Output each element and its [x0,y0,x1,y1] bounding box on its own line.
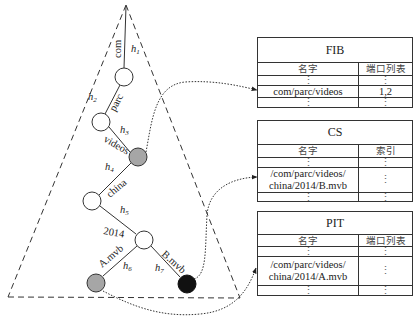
label-a-mvb: A.mvb [96,243,125,270]
pit-entry-ports: ⋮ [358,257,412,285]
node-china [83,192,101,210]
arrow-to-cs [194,177,257,279]
cs-row: ⋮ ⋮ [258,158,412,168]
node-b-mvb [178,275,196,293]
hash-h1: h1 [131,43,140,56]
cs-row: /com/parc/videos/ china/2014/B.mvb ⋮ [258,168,412,193]
pit-title: PIT [258,212,412,235]
hash-h2: h2 [88,91,97,104]
pit-row: /com/parc/videos/ china/2014/A.mvb ⋮ [258,257,412,286]
hash-h4: h4 [105,161,114,174]
pit-entry-name: /com/parc/videos/ china/2014/A.mvb [258,257,358,285]
hash-h5: h5 [120,204,129,217]
edge-com [124,6,126,68]
fib-title: FIB [258,38,412,63]
fib-header-ports: 端口列表 [358,63,412,75]
fib-table: FIB 名字 端口列表 ⋮ ⋮ com/parc/videos 1,2 ⋮ ⋮ [257,37,413,108]
fib-entry-ports: 1,2 [358,86,412,97]
pit-header-ports: 端口列表 [358,235,412,246]
hash-h7: h7 [155,262,164,275]
fib-row: ⋮ ⋮ [258,98,412,108]
cs-entry-name: /com/parc/videos/ china/2014/B.mvb [258,168,358,192]
pit-table: PIT 名字 端口列表 ⋮ ⋮ /com/parc/videos/ china/… [257,211,413,296]
node-com [115,68,133,86]
label-com: com [112,40,123,58]
fib-header-name: 名字 [258,63,358,75]
node-parc [92,113,110,131]
cs-entry-index: ⋮ [358,168,412,192]
cs-title: CS [258,121,412,145]
cs-header-index: 索引 [358,145,412,157]
label-2014: 2014 [103,225,126,240]
hash-h3: h3 [120,124,129,137]
cs-table: CS 名字 索引 ⋮ ⋮ /com/parc/videos/ china/201… [257,120,413,202]
arrow-to-fib [146,82,257,152]
node-2014 [135,231,153,249]
pit-row: ⋮ ⋮ [258,286,412,296]
node-a-mvb [87,274,105,292]
label-b-mvb: B.mvb [160,248,188,275]
label-china: china [104,176,129,199]
fib-row: ⋮ ⋮ [258,76,412,86]
pit-header-name: 名字 [258,235,358,246]
fib-entry-name: com/parc/videos [258,86,358,97]
label-parc: parc [107,92,125,113]
cs-row: ⋮ ⋮ [258,193,412,202]
arrow-to-pit [103,268,256,315]
hash-h6: h6 [123,260,132,273]
pit-row: ⋮ ⋮ [258,247,412,257]
node-videos [129,148,147,166]
cs-header-name: 名字 [258,145,358,157]
